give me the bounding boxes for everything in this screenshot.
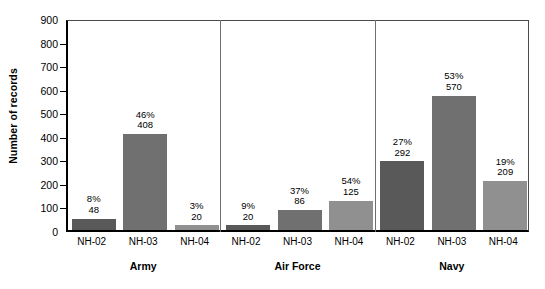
group-label: Navy — [439, 260, 464, 272]
bar-count-text: 125 — [341, 187, 360, 198]
y-tick-label: 100 — [18, 202, 58, 214]
bar-count-text: 20 — [190, 212, 204, 223]
x-tick-label: NH-02 — [77, 236, 106, 247]
y-tick-label: 0 — [18, 226, 58, 238]
bar-count-text: 48 — [87, 205, 101, 216]
x-tick-label: NH-04 — [180, 236, 209, 247]
x-tick-label: NH-02 — [232, 236, 261, 247]
bar-value-label: 27%292 — [393, 137, 412, 158]
bar[interactable] — [123, 134, 167, 230]
bar-count-text: 86 — [290, 196, 309, 207]
bar[interactable] — [329, 201, 373, 230]
bar-value-label: 8%48 — [87, 194, 101, 215]
y-tick-label: 200 — [18, 179, 58, 191]
bar-value-label: 19%209 — [496, 157, 515, 178]
y-tick-label: 500 — [18, 108, 58, 120]
x-tick-label: NH-04 — [489, 236, 518, 247]
group-separator — [375, 20, 376, 232]
y-tick-label: 600 — [18, 85, 58, 97]
bar-value-label: 53%570 — [444, 71, 463, 92]
bar[interactable] — [380, 161, 424, 230]
group-label: Army — [130, 260, 157, 272]
plot-area: 8%4846%4083%209%2037%8654%12527%29253%57… — [66, 20, 529, 232]
bar-chart: Number of records 9008007006005004003002… — [0, 0, 545, 289]
y-tick-label: 400 — [18, 132, 58, 144]
bar[interactable] — [175, 225, 219, 230]
bar-value-label: 3%20 — [190, 201, 204, 222]
group-label: Air Force — [274, 260, 320, 272]
y-tick-label: 800 — [18, 38, 58, 50]
bar-count-text: 570 — [444, 82, 463, 93]
bar[interactable] — [278, 210, 322, 230]
bar[interactable] — [483, 181, 527, 230]
bar-value-label: 9%20 — [241, 201, 255, 222]
y-tick-label: 700 — [18, 61, 58, 73]
bar-value-label: 37%86 — [290, 186, 309, 207]
group-separator — [220, 20, 221, 232]
x-tick-label: NH-03 — [437, 236, 466, 247]
bar-value-label: 54%125 — [341, 176, 360, 197]
y-tick-label: 300 — [18, 155, 58, 167]
x-tick-label: NH-04 — [334, 236, 363, 247]
bar-count-text: 20 — [241, 212, 255, 223]
x-tick-label: NH-02 — [386, 236, 415, 247]
x-tick-label: NH-03 — [129, 236, 158, 247]
bar[interactable] — [72, 219, 116, 230]
y-tick-label: 900 — [18, 14, 58, 26]
bar-count-text: 292 — [393, 148, 412, 159]
bar[interactable] — [226, 225, 270, 230]
bar-count-text: 408 — [136, 120, 155, 131]
bar-count-text: 209 — [496, 167, 515, 178]
bar[interactable] — [432, 96, 476, 230]
x-tick-label: NH-03 — [283, 236, 312, 247]
bar-value-label: 46%408 — [136, 110, 155, 131]
